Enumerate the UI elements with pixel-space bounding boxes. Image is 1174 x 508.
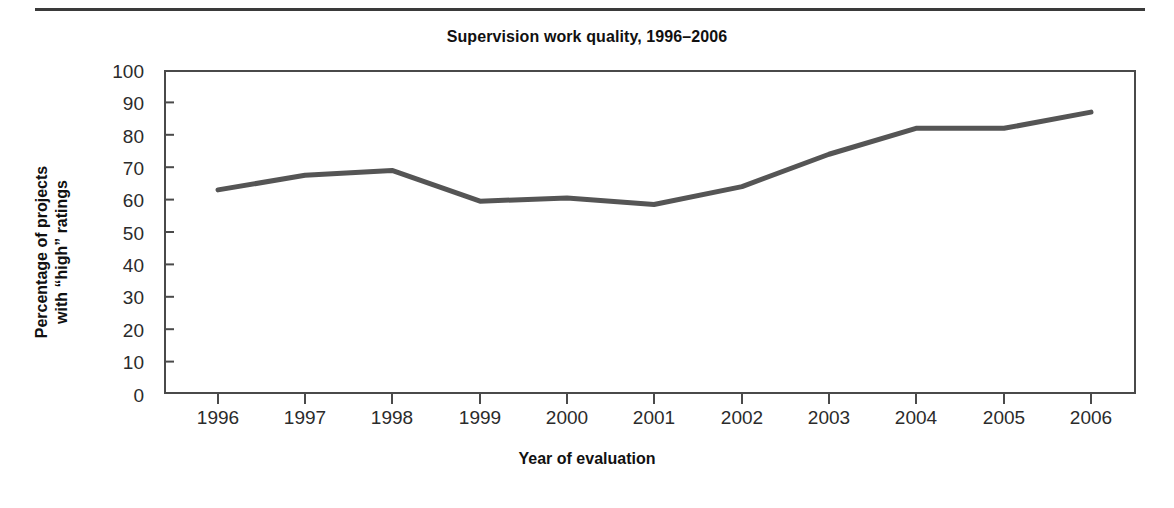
x-tick-label: 2004 — [871, 408, 961, 427]
x-tick-label: 2000 — [522, 408, 612, 427]
y-axis-tick-labels: 100 90 80 70 60 50 40 30 20 10 0 — [82, 0, 144, 508]
x-axis-title: Year of evaluation — [0, 450, 1174, 468]
y-tick-label: 100 — [82, 62, 144, 81]
y-tick-label: 20 — [82, 321, 144, 340]
y-axis-title-line-1: Percentage of projects — [32, 137, 52, 367]
y-tick-label: 30 — [82, 288, 144, 307]
x-tick-label: 2006 — [1046, 408, 1136, 427]
y-tick-label: 70 — [82, 159, 144, 178]
x-axis-ticks — [218, 394, 1091, 404]
y-tick-label: 60 — [82, 191, 144, 210]
x-tick-label: 1999 — [435, 408, 525, 427]
chart-figure: Supervision work quality, 1996–2006 Perc… — [0, 0, 1174, 508]
data-series-line — [218, 112, 1091, 204]
y-tick-label: 10 — [82, 353, 144, 372]
x-tick-label: 1998 — [347, 408, 437, 427]
y-axis-title: Percentage of projects with “high” ratin… — [32, 137, 72, 367]
x-tick-label: 1996 — [173, 408, 263, 427]
chart-title: Supervision work quality, 1996–2006 — [0, 28, 1174, 46]
x-tick-label: 2001 — [609, 408, 699, 427]
x-tick-label: 1997 — [260, 408, 350, 427]
x-tick-label: 2003 — [784, 408, 874, 427]
x-tick-label: 2005 — [959, 408, 1049, 427]
plot-canvas — [164, 70, 1136, 394]
y-axis-ticks — [164, 102, 174, 361]
x-tick-label: 2002 — [697, 408, 787, 427]
y-tick-label: 80 — [82, 127, 144, 146]
y-tick-label: 50 — [82, 224, 144, 243]
y-tick-label: 0 — [82, 386, 144, 405]
y-axis-title-line-2: with “high” ratings — [52, 137, 72, 367]
y-tick-label: 40 — [82, 256, 144, 275]
header-divider-rule — [35, 8, 1145, 11]
y-tick-label: 90 — [82, 94, 144, 113]
